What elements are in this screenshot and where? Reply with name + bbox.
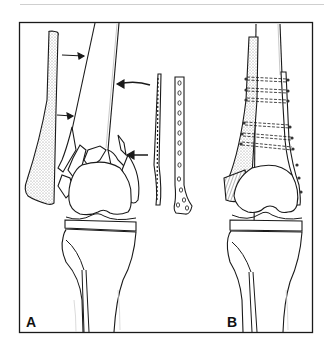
panel-a bbox=[25, 23, 192, 332]
figure-illustration bbox=[0, 0, 324, 348]
fibular-graft-a bbox=[25, 31, 58, 204]
panel-label-a: A bbox=[26, 314, 36, 330]
panel-label-b: B bbox=[227, 314, 237, 330]
condylar-plate-front bbox=[174, 77, 192, 214]
panel-b bbox=[224, 24, 303, 332]
